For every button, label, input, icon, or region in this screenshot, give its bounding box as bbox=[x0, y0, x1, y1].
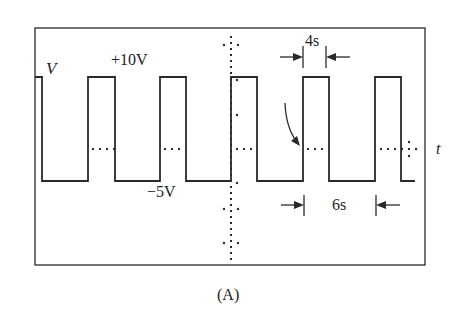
figure-caption: (A) bbox=[217, 287, 239, 303]
x-axis-label: t bbox=[436, 141, 440, 157]
high-level-label: +10V bbox=[111, 52, 148, 68]
pulse-width-dimension bbox=[280, 46, 350, 68]
y-axis-label: V bbox=[46, 60, 56, 77]
axis-tick-dots bbox=[223, 44, 417, 244]
pulse-width-label: 4s bbox=[305, 33, 319, 49]
low-duration-label: 6s bbox=[332, 197, 346, 213]
square-waveform bbox=[35, 77, 415, 181]
low-level-label: −5V bbox=[147, 184, 176, 200]
pointer-arrow bbox=[285, 103, 300, 146]
square-wave-diagram bbox=[0, 0, 461, 323]
